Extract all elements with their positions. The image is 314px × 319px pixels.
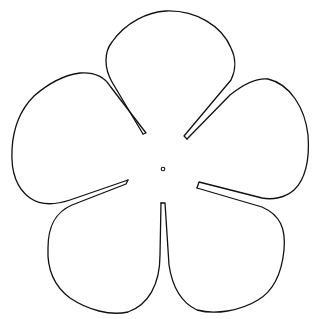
petal-top: [106, 11, 235, 139]
petal-upper-right: [187, 79, 308, 199]
petal-lower-left: [48, 180, 161, 313]
flower-template-canvas: [0, 0, 314, 319]
center-circle: [161, 167, 165, 171]
flower-outline: [12, 11, 309, 313]
petal-lower-right: [161, 188, 284, 312]
flower-outline-drawing: [0, 0, 314, 319]
